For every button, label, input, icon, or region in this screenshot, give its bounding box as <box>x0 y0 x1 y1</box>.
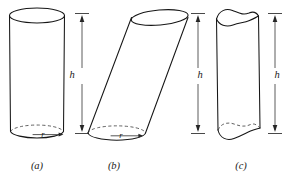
panel-caption-b: (b) <box>108 160 121 172</box>
cylinder-b-height-top-arrowhead <box>196 15 201 22</box>
cylinder-a-top-ellipse <box>10 8 65 23</box>
cylinder-b-left-wall <box>88 18 132 134</box>
cylinder-b-height-label: h <box>197 69 202 80</box>
cylinder-c-top-outer-wave <box>217 10 259 19</box>
cylinder-b-right-wall <box>146 18 189 134</box>
cylinder-c-left-wall <box>217 19 219 130</box>
cylinder-b-group <box>88 8 205 141</box>
panel-caption-c: (c) <box>235 160 247 172</box>
cylinder-c-height-label: h <box>274 69 279 80</box>
cylinder-a-group <box>10 8 90 138</box>
cylinder-c-height-bottom-arrowhead <box>273 125 278 132</box>
cylinder-a-bottom-hidden-arc <box>11 125 64 131</box>
cylinder-b-top-ellipse <box>131 8 189 28</box>
cylinder-b-bottom-hidden-arc <box>88 126 146 133</box>
cylinder-b-radius-label: r <box>119 130 123 140</box>
cylinder-a-height-label: h <box>69 69 74 80</box>
cylinder-c-top-inner-wave <box>217 16 259 26</box>
cylinder-b-height-bottom-arrowhead <box>196 125 201 132</box>
cylinder-c-bottom-front-wave <box>218 128 260 139</box>
cylinder-c-bottom-hidden-wave <box>218 123 260 130</box>
cylinder-a-left-wall <box>10 16 11 132</box>
cylinder-b-bottom-front-arc <box>88 133 146 140</box>
figure-canvas: h h h r r (a) (b) (c) <box>0 0 292 183</box>
cylinder-a-right-wall <box>64 16 65 132</box>
cylinders-figure: h h h r r (a) (b) (c) <box>0 0 292 183</box>
cylinder-c-height-top-arrowhead <box>273 15 278 22</box>
cylinder-a-height-top-arrowhead <box>80 15 85 22</box>
panel-caption-a: (a) <box>31 160 44 172</box>
cylinder-c-group <box>217 10 283 140</box>
cylinder-a-height-bottom-arrowhead <box>80 125 85 132</box>
cylinder-c-right-wall <box>259 16 261 128</box>
